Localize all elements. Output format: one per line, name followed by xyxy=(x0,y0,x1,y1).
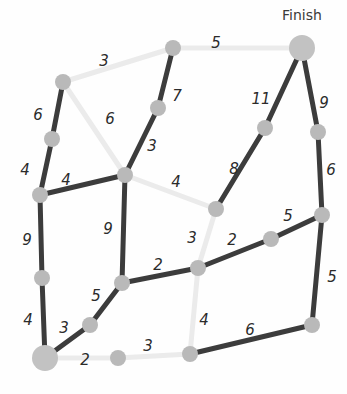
graph-edge xyxy=(198,209,216,268)
edge-weight-label: 5 xyxy=(283,207,293,225)
graph-terminal-node[interactable] xyxy=(289,35,315,61)
edge-weight-label: 3 xyxy=(187,229,197,247)
terminal-labels-layer: Finish xyxy=(282,7,322,23)
edge-weight-label: 5 xyxy=(91,287,101,305)
graph-edge xyxy=(63,82,125,175)
graph-node[interactable] xyxy=(314,207,330,223)
edge-weight-label: 11 xyxy=(251,90,270,108)
graph-edge xyxy=(118,354,190,358)
graph-terminal-node[interactable] xyxy=(32,345,58,371)
graph-node[interactable] xyxy=(304,317,320,333)
edge-weight-label: 8 xyxy=(229,160,239,178)
graph-node[interactable] xyxy=(34,270,50,286)
graph-edge xyxy=(63,48,173,82)
graph-canvas: 3566473449911986523255432346 Finish xyxy=(0,0,347,394)
edge-weight-label: 6 xyxy=(326,161,336,179)
edge-weight-label: 2 xyxy=(153,256,163,274)
edge-weight-label: 9 xyxy=(22,231,32,249)
graph-node[interactable] xyxy=(208,201,224,217)
graph-edge xyxy=(265,48,302,128)
graph-node[interactable] xyxy=(190,260,206,276)
edge-weight-label: 4 xyxy=(23,311,33,329)
graph-edge xyxy=(312,215,322,325)
graph-node[interactable] xyxy=(165,40,181,56)
graph-node[interactable] xyxy=(263,231,279,247)
edge-weight-label: 3 xyxy=(147,137,157,155)
edge-weight-label: 4 xyxy=(61,171,71,189)
edge-weight-label: 6 xyxy=(245,321,255,339)
edge-weight-label: 9 xyxy=(103,220,113,238)
edge-weight-label: 6 xyxy=(33,106,43,124)
graph-edge xyxy=(158,48,173,108)
graph-edge xyxy=(190,268,198,354)
edge-weight-label: 9 xyxy=(319,94,329,112)
edge-weight-label: 2 xyxy=(80,351,90,369)
edge-weight-label: 5 xyxy=(211,34,221,52)
graph-node[interactable] xyxy=(82,317,98,333)
graph-edge xyxy=(40,195,42,278)
graph-node[interactable] xyxy=(32,187,48,203)
graph-node[interactable] xyxy=(310,124,326,140)
edge-weight-label: 2 xyxy=(227,231,237,249)
edge-weight-label: 3 xyxy=(59,319,69,337)
weighted-graph-diagram: 3566473449911986523255432346 Finish xyxy=(0,0,347,394)
edge-weight-label: 7 xyxy=(172,87,182,105)
graph-node[interactable] xyxy=(150,100,166,116)
graph-edge xyxy=(271,215,322,239)
graph-node[interactable] xyxy=(257,120,273,136)
edge-weight-label: 5 xyxy=(327,268,337,286)
graph-node[interactable] xyxy=(182,346,198,362)
graph-edge xyxy=(52,82,63,139)
edge-weight-label: 4 xyxy=(20,161,30,179)
graph-edge xyxy=(40,175,125,195)
finish-label: Finish xyxy=(282,7,322,23)
edge-weight-label: 3 xyxy=(143,337,153,355)
edge-weight-label: 4 xyxy=(199,311,209,329)
graph-node[interactable] xyxy=(55,74,71,90)
graph-node[interactable] xyxy=(110,350,126,366)
graph-edge xyxy=(122,175,125,283)
edge-weight-label: 6 xyxy=(105,110,115,128)
graph-node[interactable] xyxy=(114,275,130,291)
graph-edge xyxy=(318,132,322,215)
edge-weight-label: 3 xyxy=(99,52,109,70)
graph-edge xyxy=(216,128,265,209)
graph-edge xyxy=(40,139,52,195)
graph-node[interactable] xyxy=(117,167,133,183)
edge-weight-label: 4 xyxy=(171,173,181,191)
graph-node[interactable] xyxy=(44,131,60,147)
